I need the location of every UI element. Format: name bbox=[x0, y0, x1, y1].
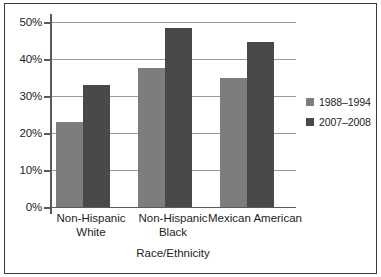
x-axis-category-labels: Non-HispanicWhiteNon-HispanicBlackMexica… bbox=[50, 211, 296, 245]
bar[interactable] bbox=[247, 42, 274, 207]
bar[interactable] bbox=[220, 78, 247, 207]
bar[interactable] bbox=[138, 68, 165, 207]
chart-figure: 0%10%20%30%40%50% Non-HispanicWhiteNon-H… bbox=[0, 0, 381, 277]
x-axis-category-label: Mexican American bbox=[196, 211, 314, 225]
bar[interactable] bbox=[165, 28, 192, 207]
legend-item[interactable]: 1988–1994 bbox=[306, 96, 376, 108]
bar-group bbox=[214, 22, 296, 207]
legend-swatch-icon bbox=[306, 118, 314, 126]
y-axis-tick-label: 10% bbox=[0, 164, 42, 176]
legend-label: 1988–1994 bbox=[319, 96, 371, 108]
legend-swatch-icon bbox=[306, 98, 314, 106]
legend-item[interactable]: 2007–2008 bbox=[306, 116, 376, 128]
legend-label: 2007–2008 bbox=[319, 116, 371, 128]
y-axis-tick-label: 20% bbox=[0, 127, 42, 139]
bar-group bbox=[132, 22, 214, 207]
x-axis-line bbox=[44, 207, 296, 209]
y-axis-tick-label: 50% bbox=[0, 16, 42, 28]
y-axis-tick-label: 30% bbox=[0, 90, 42, 102]
bar-group bbox=[50, 22, 132, 207]
y-axis-tick-label: 40% bbox=[0, 53, 42, 65]
bar[interactable] bbox=[56, 122, 83, 207]
chart-legend: 1988–19942007–2008 bbox=[306, 96, 376, 136]
bar-series-container bbox=[50, 22, 296, 207]
x-axis-title: Race/Ethnicity bbox=[50, 247, 296, 259]
bar[interactable] bbox=[83, 85, 110, 207]
